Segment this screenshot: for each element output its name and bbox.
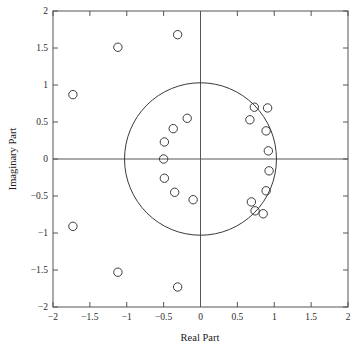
y-axis-title: Imaginary Part xyxy=(7,128,18,191)
data-point-group xyxy=(69,30,274,291)
y-tick-label: −2 xyxy=(38,302,48,312)
y-tick-label: −1 xyxy=(38,228,48,238)
data-point xyxy=(262,187,270,195)
data-point xyxy=(262,127,270,135)
y-tick-label: 0.5 xyxy=(36,117,48,127)
x-tick-label: −2 xyxy=(48,312,58,322)
data-point xyxy=(259,210,267,218)
x-tick-label: 1.5 xyxy=(305,312,317,322)
x-tick-label: 2 xyxy=(346,312,351,322)
data-point xyxy=(114,268,122,276)
y-tick-label-group: −2−1.5−1−0.500.511.52 xyxy=(31,6,48,312)
y-tick-label: 2 xyxy=(43,6,48,16)
y-tick-label: 1 xyxy=(43,80,48,90)
data-point xyxy=(170,188,178,196)
x-tick-label: 0 xyxy=(198,312,203,322)
data-point xyxy=(160,174,168,182)
data-point xyxy=(173,30,181,38)
figure-container: −2−1.5−1−0.500.511.52 −2−1.5−1−0.500.511… xyxy=(0,0,359,349)
data-point xyxy=(160,138,168,146)
y-tick-label: −0.5 xyxy=(31,191,48,201)
origin-axes xyxy=(53,11,348,307)
y-tick-label: 1.5 xyxy=(36,43,48,53)
data-point xyxy=(264,147,272,155)
scatter-plot: −2−1.5−1−0.500.511.52 −2−1.5−1−0.500.511… xyxy=(0,0,359,349)
data-point xyxy=(263,104,271,112)
data-point xyxy=(114,43,122,51)
y-tick-label: 0 xyxy=(43,154,48,164)
x-tick-label-group: −2−1.5−1−0.500.511.52 xyxy=(48,312,351,322)
x-tick-label: 0.5 xyxy=(231,312,243,322)
y-tick-label: −1.5 xyxy=(31,265,48,275)
x-tick-label: −1 xyxy=(122,312,132,322)
data-point xyxy=(246,116,254,124)
data-point xyxy=(247,198,255,206)
data-point xyxy=(251,207,259,215)
data-point xyxy=(173,283,181,291)
x-axis-title: Real Part xyxy=(181,332,220,343)
data-point xyxy=(69,222,77,230)
data-point xyxy=(169,124,177,132)
data-point xyxy=(69,90,77,98)
x-tick-label: −1.5 xyxy=(81,312,98,322)
data-point xyxy=(265,167,273,175)
x-tick-label: 1 xyxy=(272,312,277,322)
data-point xyxy=(250,103,258,111)
x-tick-label: −0.5 xyxy=(155,312,172,322)
data-point xyxy=(183,114,191,122)
data-point xyxy=(189,196,197,204)
